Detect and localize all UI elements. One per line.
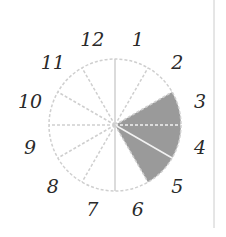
hour-label-5: 5 [171, 175, 183, 197]
sector-line [58, 92, 115, 125]
hour-label-3: 3 [194, 90, 206, 112]
hour-label-1: 1 [132, 28, 144, 50]
hour-label-4: 4 [193, 136, 206, 158]
sector-line [82, 125, 115, 182]
hour-label-2: 2 [170, 51, 183, 73]
shaded-sectors [115, 92, 181, 182]
hour-label-12: 12 [80, 28, 104, 50]
clock-diagram: 121234567891011 [0, 0, 226, 237]
hour-label-8: 8 [47, 175, 59, 197]
sector-line [82, 68, 115, 125]
hour-label-10: 10 [18, 90, 42, 112]
hour-label-9: 9 [24, 136, 36, 158]
sector-line [58, 125, 115, 158]
hour-label-7: 7 [86, 198, 99, 220]
hour-label-11: 11 [41, 51, 65, 73]
hour-label-6: 6 [132, 198, 144, 220]
